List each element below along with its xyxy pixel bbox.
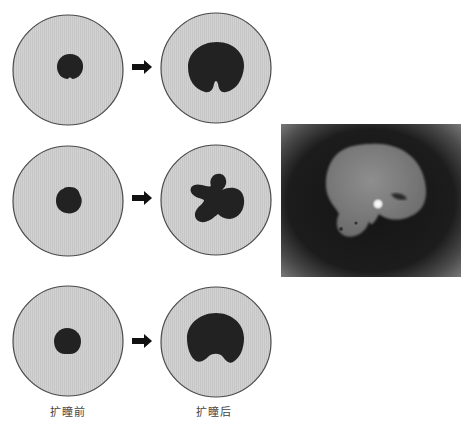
pupil-shape	[57, 54, 83, 79]
arrow-icon	[132, 334, 152, 348]
eye-row-2-after	[161, 145, 271, 255]
pupil-photo-image	[281, 124, 461, 277]
pupil-dilation-figure: 扩瞳前 扩瞳后	[0, 0, 468, 429]
label-before-dilation: 扩瞳前	[50, 403, 86, 419]
pupil-shape	[54, 328, 81, 354]
eye-row-3-before	[13, 286, 123, 396]
eye-row-2-before	[13, 146, 123, 256]
eye-row-1-before	[13, 15, 123, 125]
corneal-reflex	[372, 198, 384, 210]
clinical-photo	[281, 124, 461, 277]
eye-row-3-after	[161, 287, 271, 397]
label-after-dilation: 扩瞳后	[196, 403, 232, 419]
pupil-shape	[56, 187, 82, 213]
arrow-icon	[132, 191, 152, 205]
eye-row-1-after	[161, 13, 271, 123]
arrow-icon	[132, 60, 152, 74]
